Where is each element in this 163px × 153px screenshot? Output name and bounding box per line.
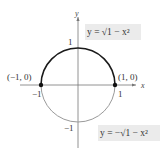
tick-x-neg: −1 xyxy=(32,89,42,99)
point-label-neg1-0: (−1, 0) xyxy=(7,72,32,82)
y-axis-label: y xyxy=(74,9,79,18)
unit-circle-diagram: y x 1 −1 −1 1 (−1, 0) (1, 0) y = √1 − x²… xyxy=(0,0,163,153)
tick-y-pos: 1 xyxy=(68,37,73,47)
upper-equation: y = √1 − x² xyxy=(87,27,130,37)
point-neg1-0 xyxy=(39,83,43,87)
point-1-0 xyxy=(113,83,117,87)
lower-equation: y = −√1 − x² xyxy=(100,128,148,138)
x-axis-label: x xyxy=(140,81,145,90)
point-label-1-0: (1, 0) xyxy=(118,72,138,82)
tick-x-pos: 1 xyxy=(118,89,123,99)
tick-y-neg: −1 xyxy=(64,123,74,133)
